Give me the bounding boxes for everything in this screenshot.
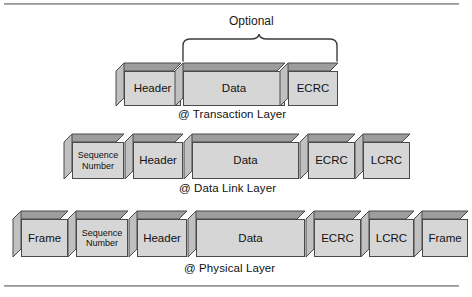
segment-label: ECRC: [315, 154, 348, 167]
segment-ecrc[interactable]: ECRC: [300, 134, 363, 180]
packet-row-physical-layer: Frame Sequence Number Header: [0, 0, 463, 80]
segment-label: LCRC: [371, 154, 402, 167]
segment-sequence-number[interactable]: Sequence Number: [64, 134, 132, 180]
segment-data[interactable]: Data: [184, 134, 307, 180]
segment-face: Data: [192, 142, 299, 179]
segment-face: ECRC: [314, 219, 361, 257]
segment-label: ECRC: [297, 82, 330, 95]
row-caption: @ Data Link Layer: [179, 182, 276, 194]
row-caption: @ Physical Layer: [184, 262, 275, 274]
segment-face: LCRC: [363, 142, 410, 179]
segment-face: Frame: [21, 219, 68, 257]
segment-face: LCRC: [369, 219, 414, 257]
row-caption: @ Transaction Layer: [178, 108, 286, 120]
segment-frame-start[interactable]: Frame: [13, 211, 76, 258]
segment-label: Header: [143, 232, 181, 245]
segment-header[interactable]: Header: [129, 211, 195, 258]
segment-label: Data: [238, 232, 262, 245]
segment-face: Header: [133, 142, 183, 179]
segment-lcrc[interactable]: LCRC: [361, 211, 422, 258]
figure-bottom-rule: [4, 285, 459, 287]
segment-label: ECRC: [321, 232, 354, 245]
segment-label: Sequence Number: [78, 150, 119, 171]
segment-face: Sequence Number: [72, 142, 124, 179]
segment-sequence-number[interactable]: Sequence Number: [68, 211, 136, 258]
segment-label: LCRC: [376, 232, 407, 245]
segment-lcrc[interactable]: LCRC: [355, 134, 418, 180]
segment-face: Header: [137, 219, 187, 257]
segment-face: Sequence Number: [76, 219, 128, 257]
segment-label: Header: [134, 82, 172, 95]
segment-ecrc[interactable]: ECRC: [306, 211, 369, 258]
segment-label: Sequence Number: [82, 228, 123, 249]
segment-label: Data: [222, 82, 246, 95]
segment-face: ECRC: [308, 142, 355, 179]
segment-frame-end[interactable]: Frame: [414, 211, 472, 258]
segment-data[interactable]: Data: [188, 211, 313, 258]
segment-header[interactable]: Header: [125, 134, 191, 180]
segment-label: Frame: [428, 232, 461, 245]
segment-label: Frame: [28, 232, 61, 245]
segment-label: Header: [139, 154, 177, 167]
segment-label: Data: [233, 154, 257, 167]
segment-face: Data: [196, 219, 305, 257]
segment-face: Frame: [422, 219, 468, 257]
